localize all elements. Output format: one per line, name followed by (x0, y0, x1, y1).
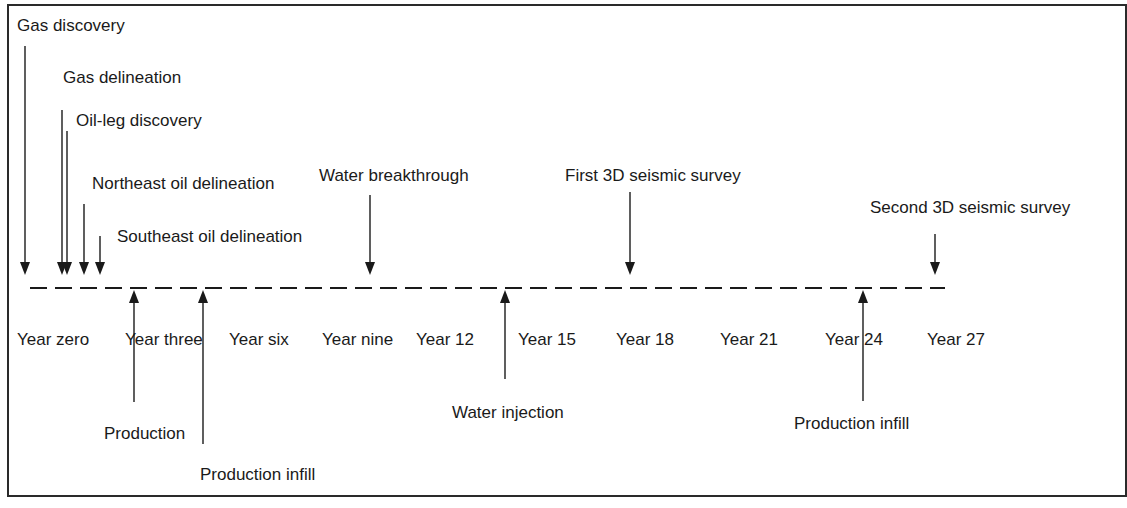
year-label-15: Year 15 (518, 331, 576, 348)
down-arrow-icon (365, 195, 375, 275)
event-northeast-oil-delineation: Northeast oil delineation (92, 175, 274, 192)
event-water-injection: Water injection (452, 404, 564, 421)
year-label-9: Year nine (322, 331, 393, 348)
up-arrow-icon (500, 290, 510, 379)
event-second-3d-seismic: Second 3D seismic survey (870, 199, 1070, 216)
event-water-breakthrough: Water breakthrough (319, 167, 469, 184)
year-label-3: Year three (125, 331, 203, 348)
down-arrow-icon (79, 204, 89, 275)
event-production-infill-late: Production infill (794, 415, 909, 432)
up-arrow-icon (198, 290, 208, 444)
year-label-6: Year six (229, 331, 289, 348)
year-label-12: Year 12 (416, 331, 474, 348)
event-production: Production (104, 425, 185, 442)
event-production-infill-early: Production infill (200, 466, 315, 483)
year-label-0: Year zero (17, 331, 89, 348)
year-label-18: Year 18 (616, 331, 674, 348)
event-first-3d-seismic: First 3D seismic survey (565, 167, 741, 184)
event-gas-delineation: Gas delineation (63, 69, 181, 86)
down-arrow-icon (95, 236, 105, 275)
down-arrow-icon (20, 46, 30, 275)
year-label-27: Year 27 (927, 331, 985, 348)
down-arrow-icon (625, 192, 635, 275)
down-arrow-icon (57, 110, 67, 275)
event-oil-leg-discovery: Oil-leg discovery (76, 112, 202, 129)
event-gas-discovery: Gas discovery (17, 17, 125, 34)
down-arrow-icon (62, 131, 72, 275)
year-label-24: Year 24 (825, 331, 883, 348)
event-southeast-oil-delineation: Southeast oil delineation (117, 228, 302, 245)
year-label-21: Year 21 (720, 331, 778, 348)
down-arrow-icon (930, 234, 940, 275)
